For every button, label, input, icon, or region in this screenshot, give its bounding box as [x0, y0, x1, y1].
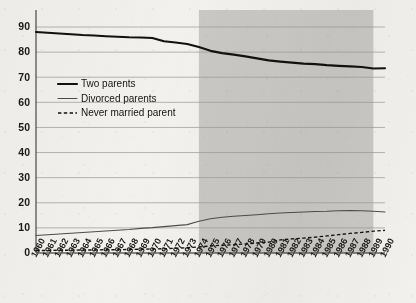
- y-axis-tick-label: 90: [18, 20, 30, 32]
- legend-label: Divorced parents: [81, 93, 157, 104]
- y-axis-tick-label: 40: [18, 146, 30, 158]
- legend-label: Two parents: [81, 78, 135, 89]
- y-axis-tick-label: 30: [18, 171, 30, 183]
- y-axis-tick-label: 50: [18, 121, 30, 133]
- chart-container: 0102030405060708090196019611962196319641…: [0, 0, 416, 303]
- y-axis-tick-label: 20: [18, 196, 30, 208]
- legend-label: Never married parent: [81, 107, 176, 118]
- y-axis-tick-label: 70: [18, 71, 30, 83]
- y-axis-tick-label: 60: [18, 96, 30, 108]
- y-axis-tick-label: 80: [18, 45, 30, 57]
- y-axis-tick-label: 10: [18, 221, 30, 233]
- line-chart: 0102030405060708090196019611962196319641…: [0, 0, 416, 303]
- shaded-region: [199, 10, 374, 253]
